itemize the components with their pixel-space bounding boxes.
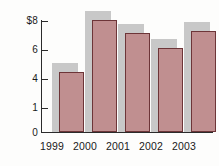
- y-tick-label-4: 0: [4, 128, 38, 138]
- y-tick-label-4-wrap: 0: [0, 128, 38, 138]
- bar-2000: [92, 20, 117, 132]
- x-label-2003: 2003: [162, 140, 206, 152]
- y-tick-label-1-wrap: 6: [0, 45, 38, 55]
- y-tick-label-3: 1: [4, 103, 38, 113]
- y-tick-label-0: $8: [4, 16, 38, 26]
- bar-2002: [158, 48, 183, 132]
- plot-area: [42, 20, 210, 132]
- x-axis-line: [41, 132, 213, 133]
- y-tick-label-1: 6: [4, 45, 38, 55]
- y-tick-label-2: 4: [4, 74, 38, 84]
- y-tick-label-0-wrap: $8: [0, 16, 38, 26]
- bar-2003: [191, 31, 216, 132]
- bar-2001: [125, 33, 150, 132]
- bar-chart: $8 6 4 1 0: [0, 0, 219, 166]
- bar-1999: [59, 72, 84, 132]
- y-tick-label-3-wrap: 1: [0, 103, 38, 113]
- y-tick-label-2-wrap: 4: [0, 74, 38, 84]
